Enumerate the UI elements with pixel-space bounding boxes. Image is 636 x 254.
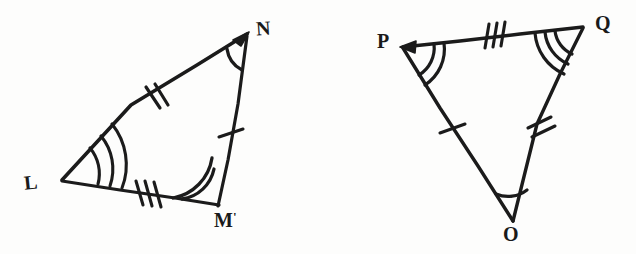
geometry-figure-canvas: L M' N P Q O (0, 0, 636, 254)
angle-arcs-O (496, 190, 527, 196)
vertex-label-M-prime: ' (233, 209, 237, 224)
triangle-lmn (62, 32, 249, 207)
vertex-label-P: P (377, 31, 389, 51)
angle-arcs-N (227, 49, 242, 70)
tick-marks-QO (528, 117, 555, 137)
triangle-pqo (400, 22, 583, 221)
angle-arcs-L (90, 124, 126, 188)
vertex-label-M: M' (214, 210, 237, 230)
tick-marks-PQ (485, 22, 505, 48)
side-LN (62, 34, 247, 180)
angle-arcs-M (173, 158, 214, 199)
vertex-label-L: L (23, 171, 38, 192)
vertex-label-O: O (503, 224, 519, 244)
vertex-label-Q: Q (595, 13, 611, 33)
angle-arcs-Q (535, 31, 572, 74)
triangles-diagram (0, 0, 636, 254)
vertex-label-N: N (255, 18, 271, 39)
tick-marks-LM (136, 181, 161, 207)
vertex-label-M-text: M (214, 209, 233, 231)
